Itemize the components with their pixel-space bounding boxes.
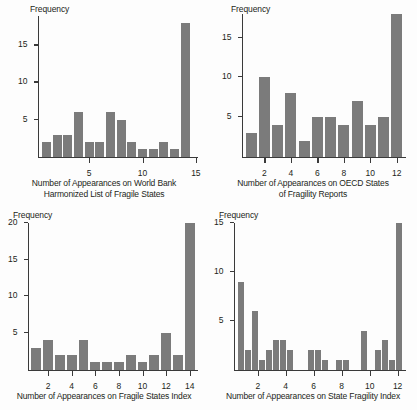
histogram-bar — [378, 117, 389, 157]
histogram-bar — [312, 117, 323, 157]
histogram-bar — [252, 311, 258, 370]
x-axis-tick: 2 — [48, 371, 49, 376]
x-axis-tick: 2 — [264, 158, 265, 163]
x-axis-tick: 10 — [143, 371, 144, 376]
histogram-bar — [343, 360, 349, 370]
histogram-bar — [138, 362, 148, 369]
histogram-bar — [285, 93, 296, 156]
y-axis-tick: 15 — [24, 259, 29, 260]
chart-panel-fragile-states-index: Frequency 51015202468101214 Number of Ap… — [0, 205, 208, 410]
x-axis-tick: 8 — [119, 371, 120, 376]
x-axis-tick: 4 — [72, 371, 73, 376]
x-axis-tick-label: 12 — [393, 381, 402, 391]
histogram-bar — [138, 149, 147, 156]
x-axis-tick: 6 — [317, 158, 318, 163]
histogram-bar — [336, 360, 342, 370]
histogram-bar — [43, 340, 53, 369]
histogram-bar — [259, 77, 270, 156]
y-axis-tick-label: 5 — [23, 114, 28, 124]
y-axis-tick: 15 — [230, 222, 235, 223]
histogram-bar — [74, 112, 83, 156]
y-axis-tick: 10 — [34, 81, 39, 82]
histogram-bar — [338, 125, 349, 157]
histogram-bar — [102, 362, 112, 369]
histogram-bar — [53, 135, 62, 157]
histogram-bar — [149, 355, 159, 370]
x-axis-label: Number of Appearances on OECD Statesof F… — [209, 178, 417, 200]
x-axis-tick-label: 2 — [46, 381, 51, 391]
x-axis-tick-label: 10 — [366, 168, 375, 178]
x-axis-tick: 8 — [342, 371, 343, 376]
x-axis-tick-label: 14 — [185, 381, 194, 391]
histogram-bar — [85, 142, 94, 157]
x-axis-tick-label: 4 — [69, 381, 74, 391]
y-axis-tick: 5 — [238, 116, 243, 117]
x-axis-tick: 10 — [370, 158, 371, 163]
x-axis-label-line: Harmonized List of Fragile States — [0, 189, 208, 200]
plot-area: 51015202468101214 — [28, 223, 198, 371]
y-axis-line — [38, 16, 39, 158]
x-axis-label-line: of Fragility Reports — [209, 189, 417, 200]
histogram-bar — [106, 112, 115, 156]
x-axis-tick: 14 — [190, 371, 191, 376]
plot-area: 5101551015 — [38, 16, 198, 158]
histogram-bar — [365, 125, 376, 157]
x-axis-tick: 4 — [286, 371, 287, 376]
x-axis-line — [38, 157, 198, 158]
y-axis-tick: 5 — [230, 320, 235, 321]
x-axis-tick: 4 — [291, 158, 292, 163]
y-axis-tick: 10 — [230, 271, 235, 272]
x-axis-tick-label: 10 — [138, 168, 147, 178]
chart-panel-oecd-states-of-fragility: Frequency 5101524681012 Number of Appear… — [209, 0, 417, 205]
histogram-bar — [238, 282, 244, 370]
y-axis-tick-label: 15 — [222, 32, 231, 42]
x-axis-line — [28, 370, 198, 371]
plot-area: 5101524681012 — [234, 223, 406, 371]
x-axis-tick: 10 — [370, 371, 371, 376]
histogram-bar — [246, 133, 257, 157]
x-axis-label-line: Number of Appearances on OECD States — [209, 178, 417, 189]
x-axis-label: Number of Appearances on World BankHarmo… — [0, 178, 208, 200]
histogram-bar — [280, 340, 286, 369]
y-axis-tick-label: 5 — [227, 111, 232, 121]
chart-panel-world-bank-harmonized: Frequency 5101551015 Number of Appearanc… — [0, 0, 208, 205]
y-axis-tick-label: 15 — [8, 254, 17, 264]
histogram-bar — [114, 362, 124, 369]
histogram-bar — [352, 101, 363, 156]
x-axis-tick-label: 4 — [283, 381, 288, 391]
x-axis-line — [242, 157, 406, 158]
x-axis-label: Number of Appearances on Fragile States … — [0, 391, 208, 402]
histogram-bar — [361, 331, 367, 370]
chart-panel-state-fragility-index: Frequency 5101524681012 Number of Appear… — [209, 205, 417, 410]
x-axis-tick: 12 — [397, 158, 398, 163]
histogram-bar — [63, 135, 72, 157]
histogram-bar — [67, 355, 77, 370]
y-axis-tick: 20 — [24, 222, 29, 223]
y-axis-tick: 15 — [34, 44, 39, 45]
x-axis-tick: 2 — [258, 371, 259, 376]
histogram-bar — [266, 350, 272, 370]
histogram-bar — [127, 142, 136, 157]
histogram-bar — [287, 350, 293, 370]
y-axis-tick-label: 10 — [214, 266, 223, 276]
histogram-bar — [375, 350, 381, 370]
x-axis-label-line: Number of Appearances on World Bank — [0, 178, 208, 189]
histogram-bar — [396, 223, 402, 370]
histogram-bar — [55, 355, 65, 370]
x-axis-label-line: Number of Appearances on Fragile States … — [0, 391, 208, 402]
histogram-bar — [382, 340, 388, 369]
x-axis-tick: 10 — [143, 158, 144, 163]
y-axis-tick: 15 — [238, 37, 243, 38]
y-axis-tick-label: 15 — [214, 217, 223, 227]
x-axis-tick: 5 — [89, 158, 90, 163]
x-axis-tick: 6 — [95, 371, 96, 376]
x-axis-tick-label: 2 — [262, 168, 267, 178]
histogram-bar — [126, 355, 136, 370]
y-axis-line — [28, 223, 29, 371]
histogram-bar — [95, 142, 104, 157]
histogram-bar — [272, 125, 283, 157]
x-axis-tick-label: 10 — [365, 381, 374, 391]
histogram-bar — [79, 340, 89, 369]
y-axis-label: Frequency — [13, 210, 52, 220]
histogram-bar — [273, 340, 279, 369]
